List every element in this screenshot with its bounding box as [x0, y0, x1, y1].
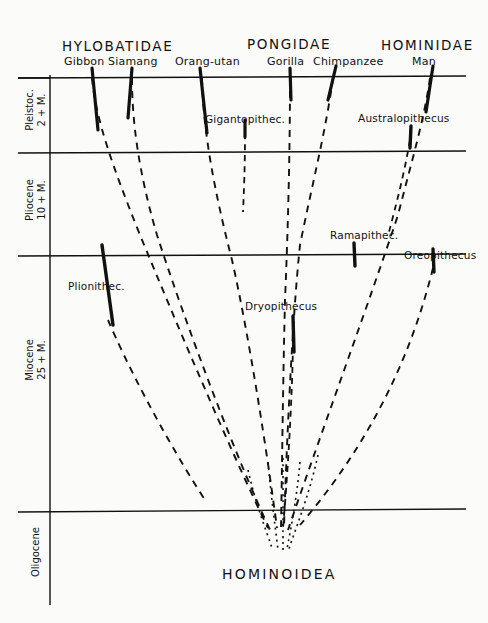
lineage-gigantopithecus: [243, 133, 245, 212]
family-label-pongidae: PONGIDAE: [247, 36, 331, 52]
range-bar-dryopithecus: [293, 316, 294, 352]
epoch-rule-miocene-oligocene: [18, 509, 466, 512]
lineage-australopithecus: [389, 140, 410, 232]
range-bar-gorilla: [290, 68, 291, 100]
phylogeny-canvas: [0, 0, 488, 623]
epoch-age-miocene: 25 + M.: [36, 265, 48, 455]
epoch-rule-top: [18, 76, 466, 78]
root-stem-1: [248, 470, 272, 548]
root-node-label: HOMINOIDEA: [222, 566, 337, 582]
root-stem-5: [289, 455, 318, 549]
epoch-name-oligocene: Oligocene: [30, 527, 41, 577]
taxon-label-gibbon: Gibbon: [64, 55, 104, 68]
range-bar-man: [426, 66, 433, 112]
phylogeny-figure: HYLOBATIDAE PONGIDAE HOMINIDAE Gibbon Si…: [0, 0, 488, 623]
epoch-label-oligocene: Oligocene: [30, 509, 42, 595]
epoch-label-pleistocene: Pleistoc. 2 + M.: [24, 77, 47, 143]
epoch-name-miocene: Miocene: [24, 339, 35, 381]
taxon-label-siamang: Siamang: [108, 55, 158, 68]
range-bar-australopithecus: [410, 126, 411, 148]
epoch-rule-pliocene-miocene: [18, 254, 466, 256]
fossil-label-gigantopithecus: Gigantopithec.: [205, 113, 285, 125]
taxon-label-man: Man: [412, 55, 436, 68]
epoch-label-miocene: Miocene 25 + M.: [24, 265, 47, 455]
epoch-label-pliocene: Pliocene 10 + M.: [24, 152, 47, 248]
epoch-age-pleistocene: 2 + M.: [36, 77, 48, 143]
range-bar-siamang: [128, 68, 132, 118]
root-stem-2: [268, 462, 278, 550]
family-label-hominidae: HOMINIDAE: [381, 37, 474, 53]
lineage-dryopithecus: [283, 345, 293, 528]
taxon-label-orang-utan: Orang-utan: [175, 55, 240, 68]
epoch-name-pliocene: Pliocene: [24, 179, 35, 221]
taxon-label-chimpanzee: Chimpanzee: [313, 55, 383, 68]
fossil-label-oreopithecus: Oreopithecus: [404, 249, 476, 261]
lineage-plionithecus: [108, 320, 205, 500]
family-label-hylobatidae: HYLOBATIDAE: [62, 38, 173, 54]
fossil-label-australopithecus: Australopithecus: [358, 112, 449, 124]
range-bar-ramapithecus: [354, 243, 355, 266]
fossil-label-dryopithecus: Dryopithecus: [245, 300, 317, 312]
epoch-name-pleistocene: Pleistoc.: [24, 89, 35, 131]
fossil-label-ramapithecus: Ramapithec.: [330, 229, 398, 241]
epoch-rule-pleistocene-pliocene: [18, 151, 466, 153]
epoch-age-pliocene: 10 + M.: [36, 152, 48, 248]
fossil-label-plionithecus: Plionithec.: [68, 280, 125, 292]
taxon-label-gorilla: Gorilla: [267, 55, 304, 68]
range-bar-chimpanzee: [328, 66, 336, 100]
